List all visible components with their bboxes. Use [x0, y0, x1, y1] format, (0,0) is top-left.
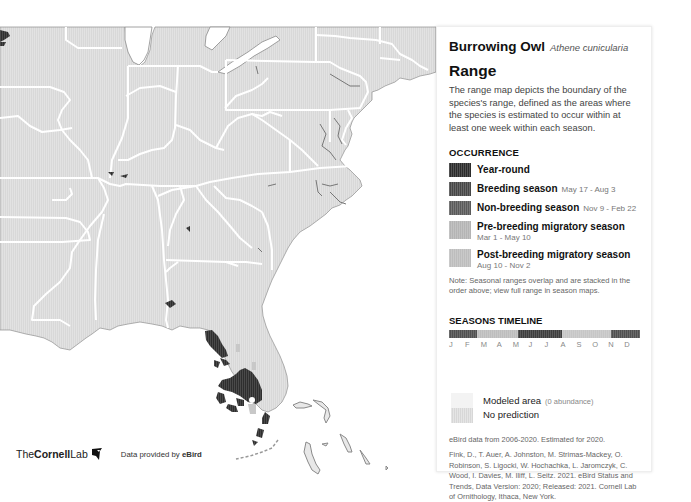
legend-panel: Burrowing Owl Athene cunicularia Range T…	[436, 26, 652, 472]
legend-label: Pre-breeding migratory season	[477, 221, 625, 232]
seasons-timeline-bar	[449, 330, 640, 338]
legend-dates: Aug 10 - Nov 2	[477, 261, 630, 271]
occurrence-heading: OCCURRENCE	[449, 147, 639, 158]
cornell-bird-icon	[91, 447, 103, 461]
pre-breeding-swatch	[449, 221, 471, 239]
non-breeding-swatch	[449, 201, 471, 215]
footer: TheCornellLab Data provided by eBird	[16, 447, 202, 461]
legend-note: Note: Seasonal ranges overlap and are st…	[449, 276, 639, 296]
timeline-segment-non-breeding	[449, 330, 477, 338]
legend-label: Post-breeding migratory season	[477, 249, 630, 260]
ebird-link[interactable]: eBird	[182, 450, 202, 459]
legend-dates: Mar 1 - May 10	[477, 233, 625, 243]
legend-item-pre-breeding: Pre-breeding migratory seasonMar 1 - May…	[449, 220, 639, 243]
timeline-segment-non-breeding	[611, 330, 640, 338]
citation: Fink, D., T. Auer, A. Johnston, M. Strim…	[449, 450, 639, 502]
species-title: Burrowing Owl Athene cunicularia	[449, 39, 639, 54]
timeline-month-label: M	[481, 340, 497, 349]
provided-prefix: Data provided by	[121, 450, 182, 459]
timeline-month-label: A	[497, 340, 513, 349]
legend-item-year-round: Year-round	[449, 163, 639, 177]
no-prediction-label: No prediction	[483, 408, 593, 421]
timeline-month-label: F	[465, 340, 481, 349]
data-source: eBird data from 2006-2020. Estimated for…	[449, 435, 639, 444]
species-scientific-name: Athene cunicularia	[550, 42, 628, 53]
timeline-month-label: J	[545, 340, 561, 349]
logo-bold: Cornell	[34, 448, 70, 460]
timeline-month-label: N	[608, 340, 624, 349]
data-provided-by: Data provided by eBird	[121, 450, 202, 459]
modeled-area-label: Modeled area	[483, 395, 541, 406]
species-common-name: Burrowing Owl	[449, 39, 545, 54]
timeline-month-label: J	[449, 340, 465, 349]
landmass	[0, 27, 436, 412]
legend-label: Breeding season	[477, 183, 558, 194]
cornell-lab-logo[interactable]: TheCornellLab	[16, 447, 103, 461]
timeline-month-label: S	[576, 340, 592, 349]
lake-okeechobee	[249, 397, 255, 403]
logo-prefix: The	[16, 448, 34, 460]
timeline-month-label: J	[529, 340, 545, 349]
year-round-swatch	[449, 163, 471, 177]
bahamas	[293, 400, 388, 474]
breeding-swatch	[449, 182, 471, 196]
legend-label: Year-round	[477, 164, 530, 175]
post-breeding-swatch	[449, 249, 471, 267]
timeline-segment-breeding	[518, 330, 562, 338]
logo-suffix: Lab	[70, 448, 88, 460]
modeled-area-note: (0 abundance)	[545, 397, 593, 406]
legend-item-breeding: Breeding seasonMay 17 - Aug 3	[449, 182, 639, 196]
range-heading: Range	[449, 62, 639, 80]
timeline-segment-post-breeding	[562, 330, 611, 338]
timeline-month-label: D	[624, 340, 640, 349]
timeline-month-label: O	[592, 340, 608, 349]
timeline-segment-pre-breeding	[477, 330, 518, 338]
timeline-month-label: M	[513, 340, 529, 349]
timeline-months: JFMAMJJASOND	[449, 340, 640, 349]
modeled-area-swatch	[451, 393, 473, 423]
legend-item-non-breeding: Non-breeding seasonNov 9 - Feb 22	[449, 201, 639, 215]
timeline-month-label: A	[560, 340, 576, 349]
legend-label: Non-breeding season	[477, 202, 579, 213]
legend-dates: May 17 - Aug 3	[562, 185, 616, 194]
legend-dates: Nov 9 - Feb 22	[583, 204, 636, 213]
legend-item-post-breeding: Post-breeding migratory seasonAug 10 - N…	[449, 248, 639, 271]
range-description: The range map depicts the boundary of th…	[449, 84, 639, 134]
timeline-heading: SEASONS TIMELINE	[449, 315, 639, 326]
modeled-area-legend: Modeled area(0 abundance) No prediction	[449, 393, 639, 423]
